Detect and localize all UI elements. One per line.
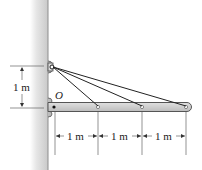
diagram-canvas: O 1 m 1 m 1 m 1 m (0, 0, 202, 170)
pin-O (52, 105, 55, 108)
cable-2 (53, 67, 142, 106)
wall (30, 0, 48, 170)
horizontal-dimension-label-1: 1 m (67, 130, 84, 142)
vertical-dimension-label: 1 m (13, 81, 30, 93)
cable-3 (53, 67, 186, 106)
beam (48, 103, 192, 112)
cables (53, 67, 186, 106)
point-label-O: O (55, 89, 63, 101)
horizontal-dimension-label-3: 1 m (155, 130, 172, 142)
horizontal-dimension-label-2: 1 m (111, 130, 128, 142)
